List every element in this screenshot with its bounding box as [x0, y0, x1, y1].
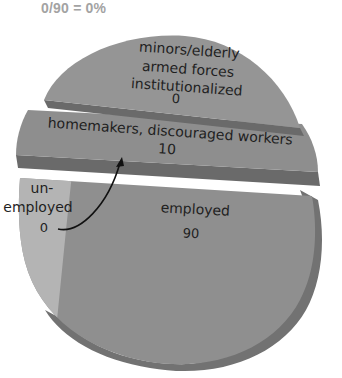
label-employed-part: employed [3, 199, 72, 215]
value-employed: 90 [182, 225, 199, 241]
value-top-slice: 0 [171, 91, 180, 107]
value-middle-slice: 10 [158, 140, 177, 157]
exploded-pie-chart: minors/elderly armed forces institutiona… [0, 0, 342, 378]
label-un: un- [31, 180, 54, 196]
value-unemployed: 0 [40, 220, 48, 235]
